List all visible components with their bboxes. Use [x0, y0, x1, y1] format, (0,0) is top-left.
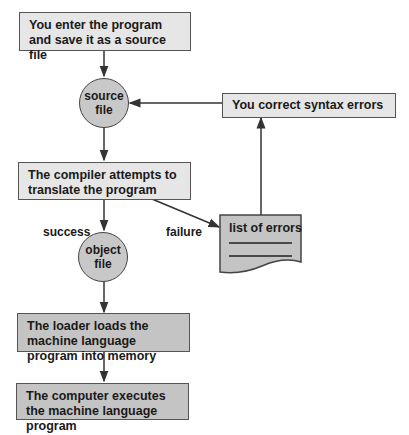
source-file-line1: source — [84, 89, 123, 103]
object-file-line1: object — [85, 243, 120, 257]
loader-box: The loader loads the machine language pr… — [17, 313, 190, 352]
enter-program-box: You enter the program and save it as a s… — [19, 12, 191, 51]
object-file-line2: file — [85, 257, 120, 271]
success-label: success — [43, 225, 90, 239]
correct-errors-box: You correct syntax errors — [222, 93, 396, 118]
compiler-box: The compiler attempts to translate the p… — [18, 162, 191, 200]
loader-text: The loader loads the machine language pr… — [27, 319, 156, 363]
list-of-errors-text: list of errors — [229, 221, 302, 235]
object-file-circle: object file — [78, 232, 128, 282]
connector-lines — [0, 0, 409, 435]
execute-box: The computer executes the machine langua… — [16, 383, 189, 420]
correct-errors-text: You correct syntax errors — [232, 98, 383, 112]
failure-label: failure — [166, 225, 202, 239]
source-file-line2: file — [84, 103, 123, 117]
compiler-text: The compiler attempts to translate the p… — [28, 168, 177, 197]
source-file-circle: source file — [79, 78, 129, 128]
